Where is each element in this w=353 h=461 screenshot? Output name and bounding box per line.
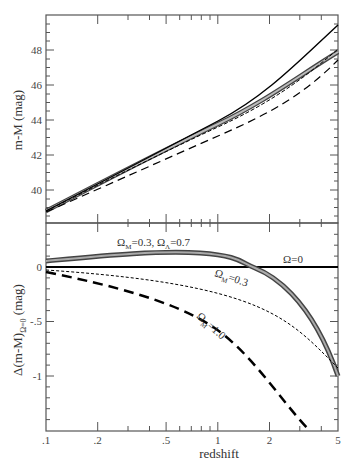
svg-text:42: 42 bbox=[31, 149, 42, 161]
annotation-om03: ΩM=0.3 bbox=[212, 266, 250, 291]
svg-text:1: 1 bbox=[215, 434, 221, 446]
hubble-diagram: 48 46 44 42 40 0 -.5 -1 .1 .2 .5 1 2 5 r… bbox=[0, 0, 353, 461]
top-y-tick-labels: 48 46 44 42 40 bbox=[31, 44, 43, 196]
svg-text:.2: .2 bbox=[94, 434, 102, 446]
top-panel-frame bbox=[46, 15, 338, 223]
svg-text:-1: -1 bbox=[33, 370, 42, 382]
top-curves bbox=[46, 25, 338, 212]
curve-om10-bottom bbox=[46, 272, 310, 431]
annotation-omega0: Ω=0 bbox=[283, 253, 303, 265]
svg-text:-.5: -.5 bbox=[30, 315, 42, 327]
bottom-y-tick-labels: 0 -.5 -1 bbox=[30, 261, 42, 382]
svg-text:0: 0 bbox=[37, 261, 43, 273]
svg-text:.1: .1 bbox=[42, 434, 50, 446]
svg-text:44: 44 bbox=[31, 114, 43, 126]
svg-text:40: 40 bbox=[31, 184, 43, 196]
svg-text:48: 48 bbox=[31, 44, 43, 56]
svg-text:46: 46 bbox=[31, 79, 43, 91]
svg-text:5: 5 bbox=[335, 434, 341, 446]
svg-text:.5: .5 bbox=[162, 434, 171, 446]
annotation-om10: ΩM=1.0 bbox=[193, 310, 229, 344]
top-y-axis-title: m-M (mag) bbox=[10, 90, 25, 150]
bottom-y-axis-title: Δ(m-M)Ω=0 (mag) bbox=[10, 284, 28, 376]
x-tick-labels: .1 .2 .5 1 2 5 bbox=[42, 434, 341, 446]
annotation-lcdm: ΩM=0.3, ΩΛ=0.7 bbox=[117, 236, 191, 251]
svg-text:2: 2 bbox=[267, 434, 273, 446]
curve-om03-bottom bbox=[46, 270, 338, 368]
curve-lcdm-top bbox=[46, 52, 338, 211]
x-axis-title: redshift bbox=[199, 446, 239, 461]
bottom-curves bbox=[46, 252, 338, 431]
curve-omega0-top bbox=[46, 25, 338, 211]
